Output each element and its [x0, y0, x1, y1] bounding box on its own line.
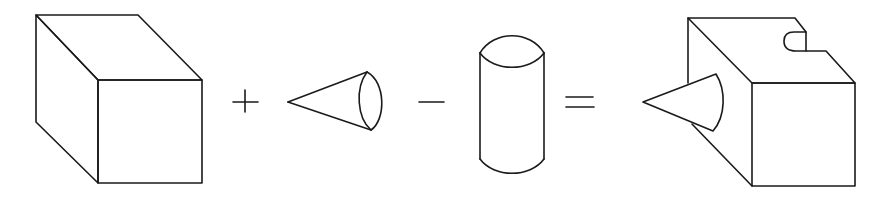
- result-shape: Block with cone attached and cylindrical…: [643, 18, 855, 186]
- plus-operator-icon: +: [233, 90, 258, 112]
- cone-shape: Cone: [288, 72, 382, 130]
- cylinder-shape: Cylinder: [480, 36, 544, 174]
- csg-diagram: Constructive solid geometry: block + con…: [0, 0, 890, 206]
- cube-shape: Rectangular block (cube): [36, 15, 202, 183]
- equals-operator-icon: =: [566, 97, 594, 107]
